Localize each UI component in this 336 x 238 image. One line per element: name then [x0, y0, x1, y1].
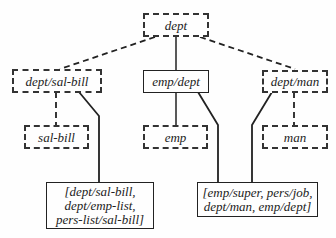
node-line: pers-list/sal-bill] [56, 213, 144, 227]
node-label: emp [165, 131, 187, 144]
node-line: [emp/super, pers/job, [202, 186, 312, 200]
node-label: man [284, 131, 306, 144]
node-line: dept/emp-list, [64, 199, 135, 213]
node-emp-dept: emp/dept [143, 70, 209, 93]
node-dept-man: dept/man [262, 70, 328, 93]
node-dept-sal-bill: dept/sal-bill [12, 69, 102, 93]
node-label: dept/man [271, 75, 319, 88]
node-list-right: [emp/super, pers/job, dept/man, emp/dept… [197, 182, 318, 217]
node-sal-bill: sal-bill [24, 125, 89, 149]
node-man: man [262, 125, 328, 149]
node-label: dept/sal-bill [26, 75, 89, 88]
node-list-left: [dept/sal-bill, dept/emp-list, pers-list… [46, 182, 154, 229]
node-emp: emp [143, 125, 208, 149]
node-line: [dept/sal-bill, [64, 185, 135, 199]
edge-dept-to-dept-man [200, 37, 295, 69]
node-label: emp/dept [152, 75, 200, 88]
node-dept: dept [143, 13, 209, 37]
node-label: dept [165, 19, 187, 32]
node-label: sal-bill [38, 131, 75, 144]
node-line: dept/man, emp/dept] [204, 200, 312, 214]
edge-dept-to-dept-sal-bill [60, 37, 155, 69]
